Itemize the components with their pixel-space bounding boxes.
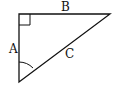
angle-arc-marker	[19, 62, 33, 68]
right-triangle-diagram: A B C	[0, 0, 115, 85]
side-c-label: C	[65, 47, 74, 61]
side-a-label: A	[8, 42, 18, 56]
side-b-label: B	[61, 0, 70, 14]
right-angle-marker	[19, 14, 30, 25]
